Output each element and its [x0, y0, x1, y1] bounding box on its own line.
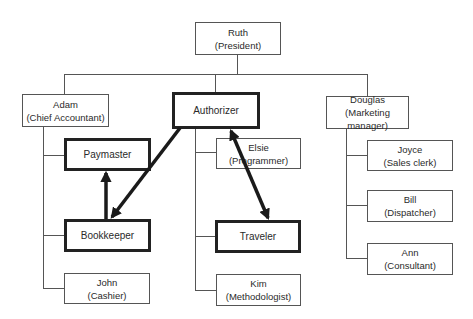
node-role: (Cashier) — [87, 289, 126, 302]
node-paymaster: Paymaster — [64, 138, 151, 171]
node-ann: Ann (Consultant) — [367, 243, 453, 275]
node-role: (Sales clerk) — [384, 156, 437, 169]
node-adam: Adam (Chief Accountant) — [22, 94, 109, 127]
node-bill: Bill (Dispatcher) — [367, 190, 453, 222]
hierarchy-lines — [43, 54, 368, 291]
node-role: (Consultant) — [384, 259, 436, 272]
node-role: (President) — [215, 39, 261, 52]
node-role: (Marketing manager) — [327, 106, 408, 132]
node-traveler: Traveler — [215, 220, 301, 253]
node-john: John (Cashier) — [64, 273, 150, 304]
node-name: Elsie — [248, 141, 269, 154]
node-name: Paymaster — [84, 148, 132, 161]
node-elsie: Elsie (Programmer) — [216, 138, 301, 169]
node-authorizer: Authorizer — [172, 92, 260, 129]
node-name: Bookkeeper — [81, 229, 134, 242]
node-kim: Kim (Methodologist) — [216, 274, 301, 306]
node-name: Bill — [404, 193, 417, 206]
node-name: Kim — [250, 277, 266, 290]
node-name: Authorizer — [193, 104, 239, 117]
node-bookkeeper: Bookkeeper — [64, 219, 151, 252]
node-ruth: Ruth (President) — [195, 22, 281, 55]
node-name: Ruth — [228, 26, 248, 39]
node-role: (Chief Accountant) — [26, 111, 104, 124]
node-joyce: Joyce (Sales clerk) — [367, 140, 453, 171]
node-douglas: Douglas (Marketing manager) — [326, 96, 409, 129]
node-name: Adam — [53, 98, 78, 111]
node-name: John — [97, 276, 118, 289]
node-name: Joyce — [398, 143, 423, 156]
node-name: Traveler — [240, 230, 276, 243]
node-name: Douglas — [350, 93, 385, 106]
node-role: (Methodologist) — [226, 290, 291, 303]
node-role: (Programmer) — [229, 154, 288, 167]
node-name: Ann — [402, 246, 419, 259]
node-role: (Dispatcher) — [384, 206, 436, 219]
